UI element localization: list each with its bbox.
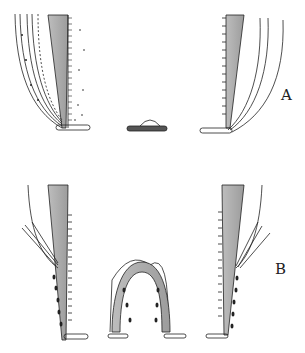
panel-b-center <box>108 260 186 338</box>
diagram <box>0 0 305 353</box>
label-b: B <box>275 260 286 278</box>
panel-a-center <box>127 120 167 131</box>
panel-a-right <box>200 15 283 133</box>
panel-a-left <box>15 14 90 130</box>
panel-b-left <box>22 185 88 340</box>
panel-b-right <box>206 185 270 338</box>
label-a: A <box>281 86 292 104</box>
